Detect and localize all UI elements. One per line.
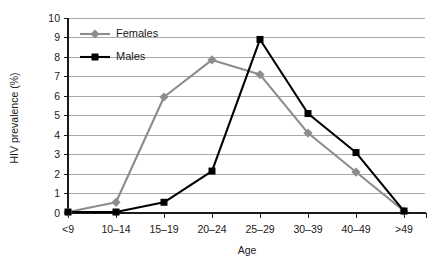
x-axis-title: Age: [238, 244, 257, 256]
data-point-males-1: [113, 209, 120, 216]
x-tick-label-3: 20–24: [197, 223, 226, 235]
x-tick-label-6: 40–49: [341, 223, 370, 235]
y-axis-title: HIV prevalence (%): [8, 72, 20, 163]
y-tick-label-8: 8: [54, 51, 60, 63]
legend-label-males: Males: [116, 50, 146, 62]
y-tick-label-9: 9: [54, 31, 60, 43]
legend-label-females: Females: [116, 27, 159, 39]
series-line-group: [68, 39, 404, 212]
x-tick-label-7: >49: [395, 223, 413, 235]
y-tick-label-10: 10: [48, 12, 60, 24]
data-point-males-6: [353, 149, 360, 156]
hiv-prevalence-by-age-chart: 012345678910 <910–1415–1920–2425–2930–39…: [0, 0, 440, 266]
x-tick-label-1: 10–14: [101, 223, 130, 235]
x-tick-label-0: <9: [62, 223, 74, 235]
y-tick-label-7: 7: [54, 70, 60, 82]
y-tick-label-6: 6: [54, 90, 60, 102]
chart-canvas: 012345678910 <910–1415–1920–2425–2930–39…: [0, 0, 440, 266]
legend-marker-males: [92, 54, 99, 61]
y-tick-label-1: 1: [54, 187, 60, 199]
data-point-males-2: [161, 199, 168, 206]
y-tick-label-4: 4: [54, 129, 60, 141]
series-line-males: [68, 39, 404, 212]
y-tick-label-3: 3: [54, 148, 60, 160]
x-tick-label-2: 15–19: [149, 223, 178, 235]
series-line-females: [68, 60, 404, 212]
data-point-males-5: [305, 110, 312, 117]
x-tick-label-4: 25–29: [245, 223, 274, 235]
data-point-females-1: [111, 198, 120, 207]
data-point-males-4: [257, 36, 264, 43]
x-tick-label-5: 30–39: [293, 223, 322, 235]
y-axis-tick-labels: 012345678910: [48, 12, 60, 219]
data-point-males-0: [65, 209, 72, 216]
series-marker-group: [63, 36, 408, 217]
y-tick-label-2: 2: [54, 168, 60, 180]
data-point-males-3: [209, 168, 216, 175]
x-tick-mark-group: [68, 213, 426, 218]
y-tick-label-5: 5: [54, 109, 60, 121]
data-point-males-7: [401, 208, 408, 215]
x-axis-tick-labels: <910–1415–1920–2425–2930–3940–49>49: [62, 223, 413, 235]
y-tick-label-0: 0: [54, 207, 60, 219]
